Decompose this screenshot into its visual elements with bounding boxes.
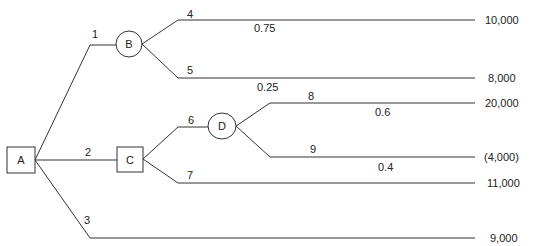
branch-8-label: 8 bbox=[308, 90, 314, 102]
branch-7-label: 7 bbox=[187, 169, 193, 181]
node-B: B bbox=[116, 31, 142, 57]
node-C-label: C bbox=[126, 154, 134, 166]
branch-8-line bbox=[236, 103, 475, 126]
node-D: D bbox=[208, 113, 236, 139]
branch-3-line bbox=[35, 160, 475, 238]
branch-1-line bbox=[35, 45, 116, 160]
branch-5-label: 5 bbox=[187, 64, 193, 76]
branch-4-line bbox=[142, 20, 475, 44]
node-A: A bbox=[7, 147, 35, 173]
probability-branch-4: 0.75 bbox=[254, 22, 275, 34]
payoff-branch-7: 11,000 bbox=[487, 177, 520, 189]
branch-1-label: 1 bbox=[92, 28, 98, 40]
payoff-branch-8: 20,000 bbox=[485, 97, 519, 109]
probability-labels: 0.75 0.25 0.6 0.4 bbox=[254, 22, 393, 173]
payoff-labels: 10,000 8,000 20,000 (4,000) 11,000 9,000 bbox=[484, 14, 520, 244]
probability-branch-5: 0.25 bbox=[257, 81, 278, 93]
probability-branch-9: 0.4 bbox=[378, 161, 393, 173]
node-B-label: B bbox=[125, 38, 132, 50]
branch-4-label: 4 bbox=[187, 8, 193, 20]
probability-branch-8: 0.6 bbox=[375, 106, 390, 118]
decision-tree-diagram: A B C D 1 2 3 4 5 6 7 8 9 0.75 0.25 0.6 … bbox=[0, 0, 536, 246]
branch-6-line bbox=[143, 127, 208, 159]
branch-2-label: 2 bbox=[85, 146, 91, 158]
tree-edges bbox=[35, 20, 475, 238]
payoff-branch-5: 8,000 bbox=[488, 72, 516, 84]
branch-9-line bbox=[236, 126, 475, 157]
payoff-branch-4: 10,000 bbox=[485, 14, 519, 26]
node-D-label: D bbox=[218, 120, 226, 132]
payoff-branch-9: (4,000) bbox=[484, 151, 519, 163]
branch-3-label: 3 bbox=[84, 214, 90, 226]
node-A-label: A bbox=[17, 154, 25, 166]
branch-9-label: 9 bbox=[310, 143, 316, 155]
node-C: C bbox=[117, 147, 143, 172]
branch-6-label: 6 bbox=[188, 114, 194, 126]
payoff-branch-3: 9,000 bbox=[490, 232, 518, 244]
